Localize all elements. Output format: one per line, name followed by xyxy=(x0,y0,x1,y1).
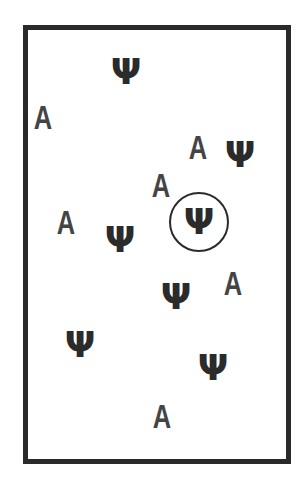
psi-symbol: Ψ xyxy=(105,222,136,258)
psi-symbol: Ψ xyxy=(161,279,192,315)
psi-symbol: Ψ xyxy=(65,327,96,363)
psi-symbol: Ψ xyxy=(111,54,142,90)
psi-symbol: Ψ xyxy=(198,350,229,386)
letter-a-symbol: A xyxy=(189,130,207,164)
letter-a-symbol: A xyxy=(152,168,170,202)
letter-a-symbol: A xyxy=(224,266,242,300)
psi-symbol: Ψ xyxy=(225,137,256,173)
psi-symbol: Ψ xyxy=(184,204,215,240)
letter-a-symbol: A xyxy=(34,100,52,134)
letter-a-symbol: A xyxy=(153,399,171,433)
letter-a-symbol: A xyxy=(57,205,75,239)
